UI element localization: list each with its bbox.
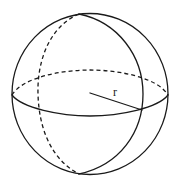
meridian-back-dashed bbox=[38, 14, 79, 174]
sphere-outline bbox=[12, 14, 168, 175]
meridian-front-solid bbox=[79, 14, 143, 174]
equator-back-dashed bbox=[12, 70, 168, 95]
equator-front-solid bbox=[12, 95, 168, 116]
sphere-diagram: r bbox=[0, 0, 178, 187]
radius-label: r bbox=[113, 85, 117, 99]
